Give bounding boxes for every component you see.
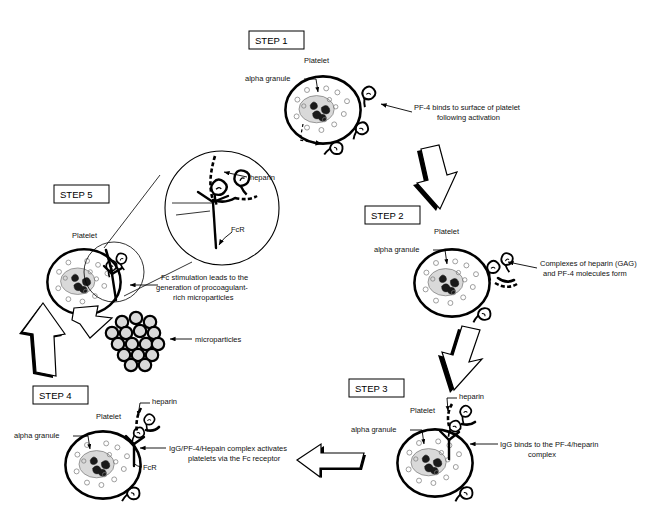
step-4-callout-line2: platelets via the Fc receptor — [188, 454, 281, 463]
step-3-heparin-label: heparin — [459, 392, 484, 401]
step-2-callout: Complexes of heparin (GAG) and PF-4 mole… — [508, 259, 637, 278]
step-3-callout: IgG binds to the PF-4/heparin complex — [470, 440, 598, 459]
step-4-badge: STEP 4 — [33, 386, 88, 404]
step-2-group: STEP 2 Platelet alpha granule Complexes … — [365, 206, 637, 327]
arrow-step4-to-step5 — [19, 303, 65, 378]
arrow-step3-to-step4 — [297, 444, 366, 478]
step-2-badge-label: STEP 2 — [371, 210, 404, 221]
step-5-microparticle-leader: microparticles — [170, 335, 242, 344]
step-5-platelet-label: Platelet — [72, 231, 98, 240]
step-4-group: STEP 4 Platelet alpha granule heparin — [14, 386, 287, 506]
hit-pathway-diagram: STEP 1 Platelet alpha granule PF-4 binds… — [0, 0, 647, 527]
step-1-platelet — [285, 76, 360, 143]
step-5-inset-fcr-label: FcR — [231, 225, 245, 234]
step-3-badge: STEP 3 — [349, 379, 404, 397]
step-2-callout-line2: and PF-4 molecules form — [543, 269, 627, 278]
step-5-callout-line1: Fc stimulation leads to the — [161, 273, 248, 282]
step-1-callout: PF-4 binds to surface of platelet follow… — [381, 103, 521, 122]
step-3-badge-label: STEP 3 — [355, 383, 388, 394]
step-3-callout-line1: IgG binds to the PF-4/heparin — [500, 440, 598, 449]
arrow-step2-to-step3 — [438, 326, 482, 393]
step-5-group: STEP 5 Platelet — [47, 151, 279, 371]
step-4-callout-line1: IgG/PF-4/Hepain complex activates — [169, 444, 287, 453]
step-5-inset: heparin FcR — [165, 151, 279, 265]
step-2-callout-line1: Complexes of heparin (GAG) — [540, 259, 637, 268]
step-3-granule-label: alpha granule — [351, 425, 396, 434]
step-1-group: STEP 1 Platelet alpha granule PF-4 binds… — [245, 31, 521, 160]
step-2-platelet-label: Platelet — [434, 227, 460, 236]
step-5-badge-label: STEP 5 — [60, 189, 93, 200]
step-1-badge: STEP 1 — [249, 31, 304, 49]
step-5-callout: Fc stimulation leads to the generation o… — [130, 273, 248, 302]
step-5-callout-line2: generation of procoagulant- — [156, 283, 248, 292]
step-2-badge: STEP 2 — [365, 206, 420, 224]
step-1-callout-line1: PF-4 binds to surface of platelet — [414, 103, 521, 112]
step-3-group: STEP 3 Platelet alpha granule heparin — [349, 379, 598, 506]
step-5-callout-line3: rich microparticles — [173, 293, 234, 302]
step-5-microparticles — [106, 312, 164, 371]
step-1-platelet-label: Platelet — [304, 56, 330, 65]
step-3-callout-line2: complex — [528, 450, 556, 459]
step-2-granule-label: alpha granule — [374, 245, 419, 254]
step-3-platelet — [397, 429, 472, 496]
step-4-heparin-leader: heparin — [137, 397, 178, 432]
step-4-heparin-label: heparin — [152, 397, 177, 406]
step-5-badge: STEP 5 — [54, 185, 109, 203]
step-2-platelet — [414, 249, 489, 316]
step-4-granule-label: alpha granule — [14, 431, 59, 440]
step-4-callout: IgG/PF-4/Hepain complex activates platel… — [140, 444, 287, 463]
step-4-fcr-label: FcR — [143, 463, 157, 472]
step-1-badge-label: STEP 1 — [255, 35, 288, 46]
step-1-callout-line2: following activation — [437, 113, 500, 122]
step-1-granule-label: alpha granule — [245, 74, 290, 83]
step-3-platelet-label: Platelet — [410, 406, 436, 415]
step-4-platelet-label: Platelet — [96, 412, 122, 421]
arrow-step1-to-step2 — [413, 145, 457, 211]
step-5-microparticle-label: microparticles — [195, 335, 242, 344]
step-4-badge-label: STEP 4 — [39, 390, 72, 401]
step-5-inset-heparin-label: heparin — [250, 173, 275, 182]
